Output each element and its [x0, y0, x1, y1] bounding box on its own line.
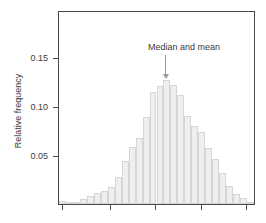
histogram-bar	[87, 196, 94, 204]
histogram-bar	[129, 147, 136, 204]
histogram-bar	[136, 138, 143, 204]
histogram-bar	[247, 202, 254, 204]
histogram-bar	[66, 202, 73, 204]
histogram-bar	[233, 194, 240, 204]
x-tick-mark	[155, 205, 156, 210]
histogram-bar	[150, 92, 157, 204]
y-tick-label-015: 0.15	[22, 53, 48, 63]
histogram-bar	[191, 126, 198, 204]
histogram-bar	[198, 132, 205, 204]
x-tick-mark	[201, 205, 202, 210]
histogram-bar	[157, 86, 164, 204]
histogram-bar	[80, 199, 87, 204]
x-tick-mark	[110, 205, 111, 210]
histogram-bar	[205, 148, 212, 204]
annotation-label: Median and mean	[148, 42, 220, 52]
x-tick-mark	[62, 205, 63, 210]
histogram-bar	[170, 85, 177, 204]
annotation-arrow-head	[163, 74, 169, 79]
histogram-figure: Relative frequency 0.15 0.10 0.05 Median…	[0, 0, 266, 223]
y-tick-label-005: 0.05	[22, 151, 48, 161]
histogram-bar	[115, 177, 122, 204]
histogram-bar	[212, 159, 219, 204]
histogram-bar	[219, 173, 226, 204]
histogram-bar	[94, 193, 101, 204]
histogram-bar	[177, 95, 184, 204]
histogram-bar	[73, 202, 80, 204]
histogram-bar	[59, 201, 66, 204]
histogram-bar	[163, 80, 170, 204]
annotation-arrow-line	[165, 55, 166, 74]
histogram-bar	[122, 161, 129, 204]
histogram-bar	[240, 198, 247, 204]
histogram-bar	[101, 191, 108, 204]
histogram-bar	[143, 117, 150, 204]
histogram-bar	[184, 116, 191, 204]
x-tick-mark	[246, 205, 247, 210]
plot-area	[58, 11, 255, 205]
y-tick-label-010: 0.10	[22, 102, 48, 112]
histogram-bar	[226, 186, 233, 204]
histogram-bar	[108, 187, 115, 204]
